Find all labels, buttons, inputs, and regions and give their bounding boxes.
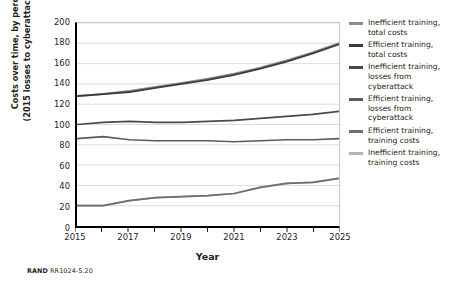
legend-label: Efficient training,training costs [368, 126, 433, 145]
legend-item: Efficient training,training costs [349, 126, 463, 145]
legend-color-swatch [349, 152, 363, 155]
y-axis-tick-label: 60 [42, 161, 70, 171]
legend-label-line: Inefficient training, [368, 148, 440, 158]
data-series-line [77, 111, 339, 124]
legend-color-swatch [349, 130, 363, 133]
legend-color-swatch [349, 66, 363, 69]
source-note: RAND RR1024-5.20 [27, 267, 93, 275]
legend-label-line: training costs [368, 136, 433, 146]
legend-item: Efficient training,total costs [349, 40, 463, 59]
data-series-line [77, 137, 339, 142]
legend-color-swatch [349, 44, 363, 47]
y-axis-tick-label: 80 [42, 140, 70, 150]
figure-container: Costs over time, by percentage (2015 los… [0, 0, 463, 288]
source-note-prefix: RAND [27, 267, 48, 275]
legend-label-line: total costs [368, 50, 433, 60]
legend-label: Inefficient training,losses fromcyberatt… [368, 62, 440, 91]
chart-legend: Inefficient training,total costsEfficien… [349, 18, 463, 170]
legend-color-swatch [349, 22, 363, 25]
x-axis-tick-label: 2021 [214, 232, 254, 242]
legend-label-line: cyberattack [368, 113, 433, 123]
legend-label-line: cyberattack [368, 82, 440, 92]
x-axis-tick-label: 2019 [161, 232, 201, 242]
legend-label-line: losses from [368, 104, 433, 114]
legend-item: Inefficient training,total costs [349, 18, 463, 37]
legend-label: Inefficient training,training costs [368, 148, 440, 167]
y-axis-tick-label: 0 [42, 223, 70, 233]
legend-label: Efficient training,losses fromcyberattac… [368, 94, 433, 123]
y-axis-tick-label: 20 [42, 202, 70, 212]
legend-item: Inefficient training,training costs [349, 148, 463, 167]
y-axis-tick-label: 180 [42, 37, 70, 47]
y-axis-title-line2: (2015 losses to cyberattack = 100%) [21, 0, 33, 143]
legend-label-line: losses from [368, 72, 440, 82]
data-lines [77, 23, 339, 226]
y-axis-tick-label: 120 [42, 99, 70, 109]
plot-area [75, 22, 340, 228]
y-axis-tick-label: 40 [42, 181, 70, 191]
y-axis-tick-label: 200 [42, 17, 70, 27]
legend-label-line: Efficient training, [368, 126, 433, 136]
legend-label-line: total costs [368, 28, 440, 38]
x-axis-tick-label: 2015 [55, 232, 95, 242]
legend-label-line: Inefficient training, [368, 18, 440, 28]
x-axis-tick-label: 2025 [320, 232, 360, 242]
y-axis-title-line1: Costs over time, by percentage [10, 0, 22, 143]
legend-label-line: Efficient training, [368, 40, 433, 50]
legend-color-swatch [349, 98, 363, 101]
data-series-line [77, 43, 339, 96]
y-axis-tick-label: 100 [42, 120, 70, 130]
legend-item: Inefficient training,losses fromcyberatt… [349, 62, 463, 91]
x-axis-tick-label: 2017 [108, 232, 148, 242]
data-series-line [77, 44, 339, 96]
legend-label: Inefficient training,total costs [368, 18, 440, 37]
x-axis-title: Year [75, 251, 340, 262]
y-axis-title: Costs over time, by percentage (2015 los… [10, 0, 33, 143]
legend-label-line: Inefficient training, [368, 62, 440, 72]
data-series-line [77, 178, 339, 205]
y-axis-tick-label: 160 [42, 58, 70, 68]
legend-label: Efficient training,total costs [368, 40, 433, 59]
legend-item: Efficient training,losses fromcyberattac… [349, 94, 463, 123]
x-axis-tick-label: 2023 [267, 232, 307, 242]
legend-label-line: training costs [368, 158, 440, 168]
source-note-id: RR1024-5.20 [50, 267, 93, 275]
y-axis-tick-label: 140 [42, 78, 70, 88]
legend-label-line: Efficient training, [368, 94, 433, 104]
